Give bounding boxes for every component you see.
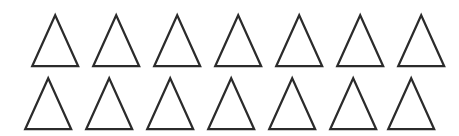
triangle-outline [335,13,385,68]
shape-canvas [0,0,459,136]
triangle-outline [206,76,256,131]
triangle-outline [274,13,324,68]
triangle-outline [328,76,378,131]
triangle-outline [84,76,134,131]
triangle-outline [396,13,446,68]
triangle-outline [23,76,73,131]
triangle-group [0,0,459,136]
triangle-outline [145,76,195,131]
triangle-outline [386,76,436,131]
triangle-outline [30,13,80,68]
triangle-outline [91,13,141,68]
triangle-outline [213,13,263,68]
triangle-outline [152,13,202,68]
triangle-outline [267,76,317,131]
